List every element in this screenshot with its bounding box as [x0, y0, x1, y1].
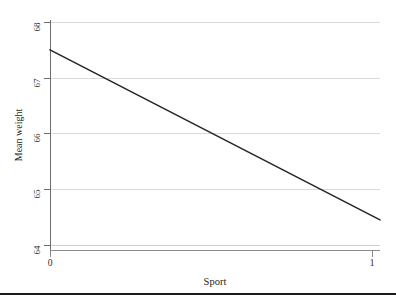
bottom-rule [0, 293, 396, 295]
series-line-mean-weight [50, 50, 380, 220]
chart-figure: 68 67 66 65 64 0 1 Mean weight Sport [0, 0, 396, 303]
series-layer [0, 0, 396, 303]
